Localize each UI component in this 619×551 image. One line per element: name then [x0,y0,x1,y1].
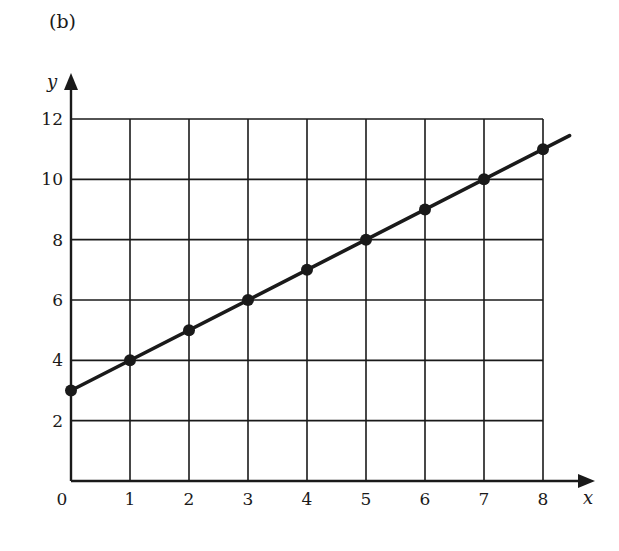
y-tick-label: 12 [41,109,63,129]
x-tick-label: 6 [420,489,431,509]
y-tick-label: 2 [52,411,63,431]
x-tick-label: 1 [125,489,136,509]
line-chart: xy01234567824681012 [0,0,619,551]
y-axis-arrow-icon [64,73,78,90]
data-point-marker [242,294,254,306]
data-point-marker [537,143,549,155]
x-tick-label: 4 [302,489,313,509]
x-tick-label: 7 [479,489,490,509]
data-point-marker [65,385,77,397]
data-point-marker [360,234,372,246]
data-point-marker [419,204,431,216]
x-tick-label: 2 [184,489,195,509]
data-point-marker [478,173,490,185]
x-tick-label: 5 [361,489,372,509]
x-tick-label: 3 [243,489,254,509]
y-axis-label: y [46,71,58,92]
y-tick-label: 6 [52,290,63,310]
x-axis-label: x [583,487,593,508]
data-point-marker [301,264,313,276]
y-tick-label: 8 [52,230,63,250]
data-point-marker [183,324,195,336]
y-tick-label: 10 [41,169,63,189]
x-tick-label: 0 [57,489,68,509]
y-tick-label: 4 [52,350,63,370]
x-tick-label: 8 [538,489,549,509]
series-line [71,136,570,391]
data-point-marker [124,354,136,366]
x-axis-arrow-icon [578,474,595,488]
